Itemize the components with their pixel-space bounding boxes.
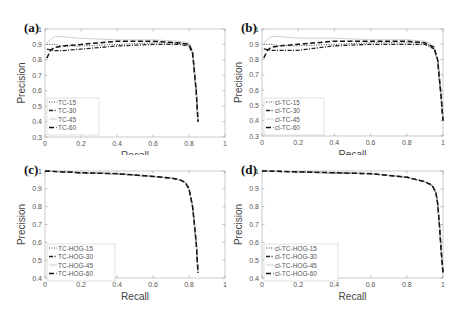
x-tick-label: 0.2 — [293, 281, 303, 288]
x-tick-label: 1 — [441, 139, 445, 146]
x-tick-label: 0.4 — [112, 281, 122, 288]
legend-entry: cl-TC-45 — [275, 116, 300, 123]
panel-label: (c) — [24, 162, 38, 177]
y-tick-label: 0.7 — [32, 72, 42, 79]
panel-d: 0.40.50.60.70.80.9100.20.40.60.81RecallP… — [230, 155, 461, 310]
x-tick-label: 1 — [223, 281, 227, 288]
legend-entry: TC-15 — [58, 99, 76, 106]
x-tick-label: 0 — [43, 281, 47, 288]
legend-entry: cl-TC-HOG-45 — [275, 262, 317, 269]
x-tick-label: 0.2 — [76, 281, 86, 288]
x-tick-label: 0.6 — [366, 139, 376, 146]
legend-entry: TC-HOG-45 — [58, 262, 93, 269]
y-axis-label: Precision — [233, 62, 244, 103]
legend-entry: TC-45 — [58, 116, 76, 123]
legend-entry: cl-TC-60 — [275, 124, 300, 131]
panel-label: (a) — [24, 20, 39, 35]
x-tick-label: 0.4 — [330, 139, 340, 146]
chart-c: 0.40.50.60.70.80.9100.20.40.60.81RecallP… — [0, 155, 230, 310]
legend-entry: TC-HOG-60 — [58, 270, 93, 277]
panel-label: (d) — [241, 162, 257, 177]
legend-entry: cl-TC-HOG-15 — [275, 245, 317, 252]
y-tick-label: 0.4 — [32, 118, 42, 125]
y-tick-label: 0.9 — [249, 185, 259, 192]
y-tick-label: 0.7 — [249, 221, 259, 228]
legend-entry: TC-HOG-15 — [58, 245, 93, 252]
y-axis-label: Precision — [16, 62, 27, 103]
x-tick-label: 0 — [260, 139, 264, 146]
y-tick-label: 0.8 — [32, 203, 42, 210]
x-axis-label: Recall — [339, 291, 367, 302]
y-axis-label: Precision — [233, 204, 244, 245]
y-tick-label: 0.3 — [249, 133, 259, 140]
chart-d: 0.40.50.60.70.80.9100.20.40.60.81RecallP… — [230, 155, 461, 310]
x-tick-label: 0.8 — [402, 139, 412, 146]
x-tick-label: 0.8 — [402, 281, 412, 288]
chart-b: 0.30.40.50.60.70.80.9100.20.40.60.81Reca… — [230, 0, 461, 155]
y-tick-label: 0.5 — [32, 103, 42, 110]
legend-entry: cl-TC-HOG-60 — [275, 270, 317, 277]
panel-b: 0.30.40.50.60.70.80.9100.20.40.60.81Reca… — [230, 0, 461, 155]
legend-entry: TC-60 — [58, 124, 76, 131]
y-tick-label: 0.6 — [32, 239, 42, 246]
x-tick-label: 0.6 — [148, 281, 158, 288]
y-tick-label: 0.7 — [249, 71, 259, 78]
y-tick-label: 0.8 — [32, 56, 42, 63]
y-tick-label: 0.5 — [32, 257, 42, 264]
legend-entry: cl-TC-HOG-30 — [275, 253, 317, 260]
x-tick-label: 0.4 — [112, 140, 122, 147]
x-tick-label: 0.2 — [76, 140, 86, 147]
x-tick-label: 1 — [441, 281, 445, 288]
x-tick-label: 0.2 — [293, 139, 303, 146]
x-tick-label: 0.8 — [184, 281, 194, 288]
y-tick-label: 0.4 — [249, 275, 259, 282]
x-tick-label: 1 — [223, 140, 227, 147]
y-tick-label: 0.9 — [32, 185, 42, 192]
y-tick-label: 0.9 — [32, 41, 42, 48]
y-tick-label: 1 — [38, 168, 42, 175]
y-tick-label: 0.7 — [32, 221, 42, 228]
x-tick-label: 0.8 — [184, 140, 194, 147]
y-tick-label: 0.4 — [249, 117, 259, 124]
y-tick-label: 0.6 — [249, 87, 259, 94]
y-tick-label: 0.5 — [249, 102, 259, 109]
x-tick-label: 0 — [43, 140, 47, 147]
y-tick-label: 0.8 — [249, 203, 259, 210]
x-tick-label: 0.4 — [330, 281, 340, 288]
legend-entry: cl-TC-15 — [275, 99, 300, 106]
panel-a: 0.30.40.50.60.70.80.9100.20.40.60.81Reca… — [0, 0, 230, 155]
y-axis-label: Precision — [16, 204, 27, 245]
y-tick-label: 0.9 — [249, 41, 259, 48]
panel-c: 0.40.50.60.70.80.9100.20.40.60.81RecallP… — [0, 155, 230, 310]
x-tick-label: 0.6 — [366, 281, 376, 288]
y-tick-label: 0.8 — [249, 56, 259, 63]
legend-entry: TC-HOG-30 — [58, 253, 93, 260]
y-tick-label: 0.3 — [32, 134, 42, 141]
chart-a: 0.30.40.50.60.70.80.9100.20.40.60.81Reca… — [0, 0, 230, 155]
panel-label: (b) — [241, 20, 257, 35]
y-tick-label: 0.5 — [249, 257, 259, 264]
x-tick-label: 0 — [260, 281, 264, 288]
y-tick-label: 0.6 — [249, 239, 259, 246]
y-tick-label: 0.6 — [32, 87, 42, 94]
y-tick-label: 0.4 — [32, 275, 42, 282]
x-tick-label: 0.6 — [148, 140, 158, 147]
x-axis-label: Recall — [121, 291, 149, 302]
legend-entry: cl-TC-30 — [275, 107, 300, 114]
legend-entry: TC-30 — [58, 107, 76, 114]
